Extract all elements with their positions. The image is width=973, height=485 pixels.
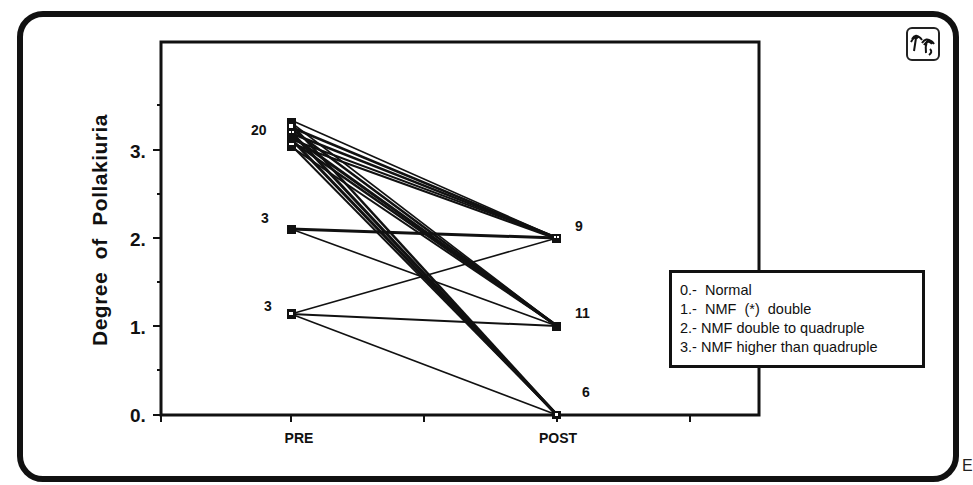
pre-markers bbox=[287, 118, 296, 319]
y-axis-label: Degree of Pollakiuria bbox=[88, 114, 112, 346]
y-tick-1: 1. bbox=[130, 317, 146, 338]
y-tick-0: 0. bbox=[130, 405, 146, 426]
legend-item-1: 1.- NMF (*) double bbox=[680, 300, 922, 319]
pre-count-level1: 3 bbox=[264, 298, 272, 314]
y-tick-3: 3. bbox=[130, 141, 146, 162]
legend-item-3: 3.- NMF higher than quadruple bbox=[680, 338, 922, 357]
x-label-pre: PRE bbox=[285, 430, 314, 446]
x-label-post: POST bbox=[539, 430, 578, 446]
y-tick-2: 2. bbox=[130, 229, 146, 250]
transition-lines bbox=[291, 121, 557, 415]
post-count-level2: 9 bbox=[575, 218, 583, 234]
legend-item-0: 0.- Normal bbox=[680, 281, 922, 300]
legend-box: 0.- Normal 1.- NMF (*) double 2.- NMF do… bbox=[669, 270, 925, 368]
pre-count-level3: 20 bbox=[251, 122, 267, 138]
corner-letter: E bbox=[962, 457, 973, 475]
legend-item-2: 2.- NMF double to quadruple bbox=[680, 319, 922, 338]
pre-count-level2: 3 bbox=[261, 210, 269, 226]
post-count-level1: 11 bbox=[575, 305, 590, 321]
post-markers bbox=[552, 234, 561, 419]
post-count-level0: 6 bbox=[582, 384, 590, 400]
